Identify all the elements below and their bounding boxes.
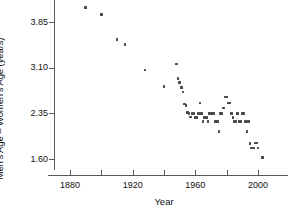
data-point (202, 120, 205, 123)
data-point (218, 130, 221, 133)
data-point (261, 156, 264, 159)
data-point (200, 112, 203, 115)
data-point (177, 77, 180, 80)
data-point (116, 38, 119, 41)
data-point (178, 81, 181, 84)
data-point (257, 147, 260, 150)
plot-data-area (0, 0, 293, 217)
data-point (144, 69, 147, 72)
data-point (235, 120, 238, 123)
data-point (255, 142, 258, 145)
data-point (100, 13, 103, 16)
data-point (232, 116, 235, 119)
data-point (199, 102, 202, 105)
data-point (188, 112, 191, 115)
data-point (163, 85, 166, 88)
data-point (243, 112, 246, 115)
data-point (175, 63, 178, 66)
data-point (213, 112, 216, 115)
data-point (185, 104, 188, 107)
scatter-plot-figure: Men's Age – Women's Age (years) 1.602.35… (0, 0, 293, 217)
data-point (216, 120, 219, 123)
data-point (124, 43, 127, 46)
data-point (205, 116, 208, 119)
data-point (182, 91, 185, 94)
data-point (230, 112, 233, 115)
data-point (196, 116, 199, 119)
data-point (239, 120, 242, 123)
data-point (222, 107, 225, 110)
data-point (249, 142, 252, 145)
data-point (247, 120, 250, 123)
data-point (192, 112, 195, 115)
data-point (229, 102, 232, 105)
data-point (84, 6, 87, 9)
x-axis-title: Year (70, 196, 258, 207)
data-point (225, 96, 228, 99)
data-point (221, 112, 224, 115)
data-point (189, 116, 192, 119)
data-point (180, 86, 183, 89)
data-point (236, 112, 239, 115)
data-point (246, 130, 249, 133)
data-point (207, 120, 210, 123)
data-point (252, 147, 255, 150)
